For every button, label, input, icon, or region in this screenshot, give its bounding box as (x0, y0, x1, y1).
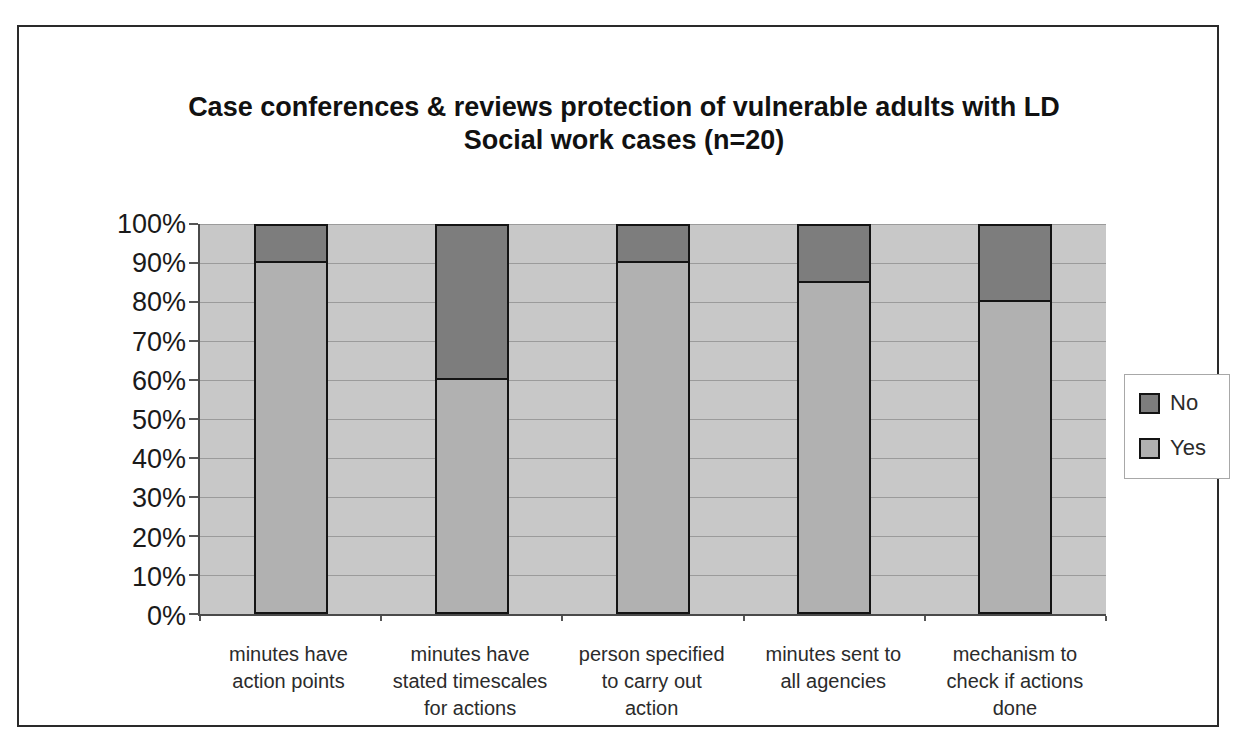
y-axis-label: 80% (132, 287, 186, 318)
y-axis-label: 100% (117, 209, 186, 240)
x-axis-label: minutes haveaction points (198, 641, 379, 695)
y-axis-label: 0% (147, 601, 186, 632)
legend-item: Yes (1139, 435, 1217, 461)
x-axis-tick (1105, 616, 1107, 621)
y-axis-tick (189, 613, 198, 615)
y-axis: 100%90%80%70%60%50%40%30%20%10%0% (74, 224, 186, 616)
y-axis-label: 60% (132, 365, 186, 396)
bar-segment-no (616, 224, 690, 263)
y-axis-tick (189, 223, 198, 225)
bar (435, 224, 509, 614)
bar-segment-yes (435, 380, 509, 614)
y-axis-tick (189, 535, 198, 537)
x-axis-label: mechanism tocheck if actionsdone (924, 641, 1105, 722)
chart-title-line2: Social work cases (n=20) (79, 124, 1169, 157)
x-axis-label: person specifiedto carry outaction (561, 641, 742, 722)
bar-segment-yes (978, 302, 1052, 614)
y-axis-tick (189, 496, 198, 498)
y-axis-label: 10% (132, 561, 186, 592)
x-axis-label-line: mechanism to (924, 641, 1105, 668)
x-axis-label-line: minutes have (380, 641, 561, 668)
bar-segment-yes (797, 283, 871, 615)
x-axis-label-line: stated timescales (380, 668, 561, 695)
legend-label: Yes (1170, 435, 1206, 461)
x-axis-label: minutes havestated timescalesfor actions (380, 641, 561, 722)
legend-label: No (1170, 390, 1198, 416)
y-axis-label: 70% (132, 326, 186, 357)
bar-segment-yes (254, 263, 328, 614)
x-axis-label-line: for actions (380, 695, 561, 722)
bar (254, 224, 328, 614)
x-axis-label-line: action points (198, 668, 379, 695)
x-axis-label-line: all agencies (743, 668, 924, 695)
y-axis-tick (189, 418, 198, 420)
x-axis-label-line: check if actions (924, 668, 1105, 695)
y-axis-label: 50% (132, 405, 186, 436)
legend-swatch-yes-icon (1139, 438, 1160, 459)
x-axis-label-line: to carry out (561, 668, 742, 695)
bar (616, 224, 690, 614)
bar-segment-yes (616, 263, 690, 614)
x-axis-label-line: minutes sent to (743, 641, 924, 668)
legend-item: No (1139, 390, 1217, 416)
x-axis-label-line: action (561, 695, 742, 722)
bar-segment-no (435, 224, 509, 380)
y-axis-tick (189, 379, 198, 381)
bar (978, 224, 1052, 614)
bar (797, 224, 871, 614)
x-axis-tick (380, 616, 382, 621)
x-axis-tick (561, 616, 563, 621)
bar-segment-no (797, 224, 871, 283)
x-axis-tick (924, 616, 926, 621)
bar-segment-no (254, 224, 328, 263)
x-axis-tick (743, 616, 745, 621)
y-axis-label: 90% (132, 248, 186, 279)
x-axis-label-line: person specified (561, 641, 742, 668)
legend-swatch-no-icon (1139, 393, 1160, 414)
y-axis-tick (189, 340, 198, 342)
x-axis-label: minutes sent toall agencies (743, 641, 924, 695)
chart-title-line1: Case conferences & reviews protection of… (79, 91, 1169, 124)
bar-segment-no (978, 224, 1052, 302)
chart-frame: Case conferences & reviews protection of… (17, 25, 1219, 727)
y-axis-label: 30% (132, 483, 186, 514)
x-axis-tick (199, 616, 201, 621)
y-axis-label: 20% (132, 522, 186, 553)
y-axis-tick (189, 301, 198, 303)
y-axis-tick (189, 262, 198, 264)
chart-title: Case conferences & reviews protection of… (79, 91, 1169, 157)
y-axis-tick (189, 457, 198, 459)
x-axis-label-line: minutes have (198, 641, 379, 668)
y-axis-label: 40% (132, 444, 186, 475)
plot-area (198, 224, 1106, 616)
y-axis-tick (189, 574, 198, 576)
legend: NoYes (1124, 374, 1230, 479)
x-axis-label-line: done (924, 695, 1105, 722)
